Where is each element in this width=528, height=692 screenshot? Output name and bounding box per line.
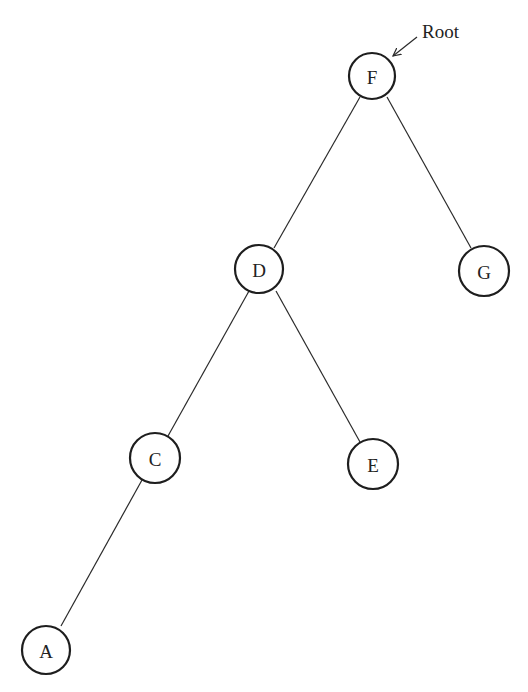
- tree-node-d: D: [235, 245, 283, 293]
- nodes: FDGCEA: [22, 53, 509, 674]
- edge-d-c: [168, 291, 249, 436]
- node-label: E: [367, 455, 379, 476]
- edges: [61, 97, 471, 626]
- node-label: F: [367, 67, 378, 88]
- edge-f-d: [274, 97, 360, 248]
- node-label: D: [252, 260, 266, 281]
- tree-node-a: A: [22, 626, 70, 674]
- tree-diagram: FDGCEA Root: [0, 0, 528, 692]
- root-arrow-icon: [393, 37, 417, 56]
- node-label: C: [149, 449, 162, 470]
- edge-c-a: [61, 480, 142, 626]
- tree-node-e: E: [348, 439, 398, 489]
- root-annotation: Root: [393, 21, 460, 56]
- node-label: G: [477, 262, 491, 283]
- tree-node-f: F: [349, 53, 395, 99]
- root-label: Root: [422, 21, 460, 42]
- tree-node-c: C: [130, 433, 180, 483]
- node-label: A: [39, 641, 53, 662]
- tree-node-g: G: [459, 246, 509, 296]
- edge-d-e: [276, 291, 360, 442]
- edge-f-g: [387, 97, 471, 248]
